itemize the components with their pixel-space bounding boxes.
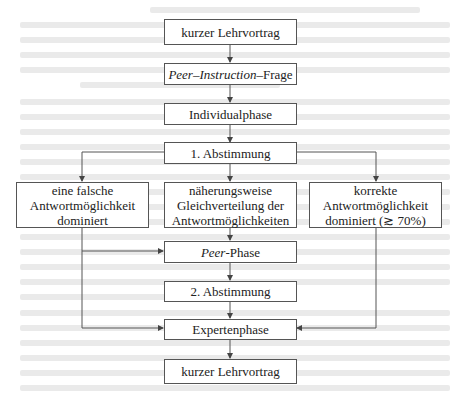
node-korrekte-antwort-dominiert: korrekte Antwortmöglichkeit dominiert (≳… — [309, 182, 442, 228]
node-label-line1: näherungsweise — [189, 183, 272, 198]
node-label-line2: Gleichverteilung der — [177, 198, 284, 213]
node-label: Peer-Phase — [201, 245, 260, 260]
node-individualphase: Individualphase — [164, 103, 297, 125]
node-label: Peer–Instruction–Frage — [168, 67, 292, 82]
node-label: Expertenphase — [192, 322, 269, 337]
node-falsche-antwort-dominiert: eine falsche Antwortmöglichkeit dominier… — [16, 182, 149, 228]
node-label: korrekte Antwortmöglichkeit dominiert (≳… — [323, 183, 428, 228]
node-kurzer-lehrvortrag-top: kurzer Lehrvortrag — [164, 19, 297, 45]
node-label-italic: Peer–Instruction — [168, 67, 256, 82]
node-abstimmung-1: 1. Abstimmung — [164, 142, 297, 164]
node-label: näherungsweise Gleichverteilung der Antw… — [172, 183, 290, 228]
node-label-line2: Antwortmöglichkeit — [30, 198, 135, 213]
node-label-line2: Antwortmöglichkeit — [323, 198, 428, 213]
node-kurzer-lehrvortrag-bottom: kurzer Lehrvortrag — [164, 359, 297, 384]
node-label-rest: -Phase — [225, 245, 260, 260]
node-label: kurzer Lehrvortrag — [181, 364, 280, 379]
node-abstimmung-2: 2. Abstimmung — [164, 281, 297, 302]
node-label: kurzer Lehrvortrag — [181, 25, 280, 40]
node-label-rest: –Frage — [256, 67, 292, 82]
node-label-line1: eine falsche — [52, 183, 114, 198]
node-label-line1: korrekte — [354, 183, 397, 198]
node-label-italic: Peer — [201, 245, 226, 260]
node-gleichverteilung: näherungsweise Gleichverteilung der Antw… — [164, 182, 297, 228]
node-label: Individualphase — [189, 107, 272, 122]
node-label-line3: dominiert — [57, 213, 108, 228]
node-label-line3: Antwortmöglichkeiten — [172, 213, 290, 228]
node-peer-phase: Peer-Phase — [164, 241, 297, 263]
node-expertenphase: Expertenphase — [164, 319, 297, 340]
node-label: 1. Abstimmung — [190, 146, 270, 161]
node-label: 2. Abstimmung — [190, 284, 270, 299]
node-label-line3: dominiert (≳ 70%) — [325, 213, 426, 228]
node-peer-instruction-frage: Peer–Instruction–Frage — [164, 63, 297, 85]
node-label: eine falsche Antwortmöglichkeit dominier… — [30, 183, 135, 228]
